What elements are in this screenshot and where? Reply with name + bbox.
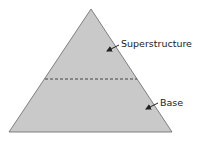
superstructure-label: Superstructure bbox=[121, 38, 192, 49]
pyramid-diagram: Superstructure Base bbox=[0, 0, 198, 141]
pyramid-triangle bbox=[9, 9, 172, 132]
base-label: Base bbox=[160, 97, 183, 108]
